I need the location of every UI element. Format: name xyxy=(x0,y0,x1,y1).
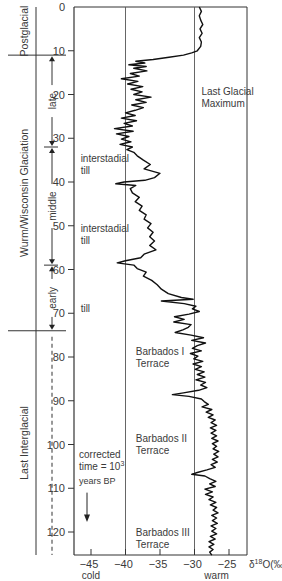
stage-label: Postglacial xyxy=(18,6,30,57)
y-tick-label: 100 xyxy=(47,439,65,451)
x-tick-label: −35 xyxy=(149,558,168,570)
x-axis-unit-label: δ18O(‰) xyxy=(249,558,282,570)
x-tick-label: −45 xyxy=(80,558,99,570)
annotation-text: Barbados II xyxy=(136,433,187,444)
x-tick-label: −25 xyxy=(218,558,237,570)
time-note-line: years BP xyxy=(79,476,116,486)
delta-o18-chart: latemiddleearlyPostglacialWurm/Wisconsin… xyxy=(0,0,282,581)
annotation-text: Maximum xyxy=(201,98,244,109)
x-tick-label: −40 xyxy=(114,558,133,570)
annotation-text: till xyxy=(81,303,90,314)
y-tick-label: 10 xyxy=(53,45,65,57)
y-tick-label: 30 xyxy=(53,132,65,144)
y-tick-label: 110 xyxy=(47,482,65,494)
warm-label: warm xyxy=(203,570,228,581)
y-tick-label: 50 xyxy=(53,220,65,232)
y-tick-label: 90 xyxy=(53,395,65,407)
annotation-text: Last Glacial xyxy=(201,86,253,97)
substage-label: middle xyxy=(47,191,58,221)
reference-lines xyxy=(126,7,195,555)
x-axis: −45−40−35−30−25coldwarmδ18O(‰) xyxy=(80,549,282,581)
annotation-text: Barbados III xyxy=(136,527,190,538)
annotation-text: interstadial xyxy=(81,153,129,164)
y-tick-label: 60 xyxy=(53,264,65,276)
annotation-text: Terrace xyxy=(136,358,170,369)
time-note: correctedtime = 103years BP xyxy=(79,449,124,522)
substage-label: early xyxy=(47,287,58,309)
x-tick-label: −30 xyxy=(183,558,202,570)
annotation-text: Terrace xyxy=(136,539,170,550)
stage-label: Last Interglacial xyxy=(18,406,30,480)
y-tick-label: 70 xyxy=(53,307,65,319)
time-note-line: corrected xyxy=(79,449,121,460)
arrow-down-icon xyxy=(49,325,55,330)
cold-label: cold xyxy=(82,570,100,581)
down-arrow-icon xyxy=(84,515,90,522)
y-tick-label: 120 xyxy=(47,526,65,538)
time-note-line: time = 103 xyxy=(79,460,124,472)
arrow-up-icon xyxy=(49,56,55,61)
annotation-text: till xyxy=(81,235,90,246)
annotation-text: Barbados I xyxy=(136,346,184,357)
y-tick-label: 0 xyxy=(59,1,65,13)
y-tick-label: 20 xyxy=(53,89,65,101)
annotation-text: interstadial xyxy=(81,223,129,234)
y-tick-label: 40 xyxy=(53,176,65,188)
y-tick-label: 80 xyxy=(53,351,65,363)
annotation-text: till xyxy=(81,165,90,176)
arrow-up-icon xyxy=(49,148,55,153)
stage-label: Wurm/Wisconsin Glaciation xyxy=(18,129,30,257)
annotation-text: Terrace xyxy=(136,445,170,456)
